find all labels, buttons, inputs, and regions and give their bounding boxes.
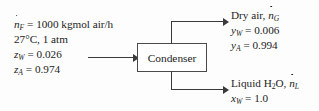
feed-conditions-line: 27°C, 1 atm	[14, 32, 113, 47]
gas-outlet-line	[171, 21, 225, 22]
liquid-stream-name-line: Liquid H2O, nL	[231, 76, 299, 91]
n-dot-symbol: n	[14, 17, 20, 32]
liquid-outlet-label: Liquid H2O, nL xW = 1.0	[231, 76, 299, 106]
subscript-G: G	[274, 14, 280, 23]
n-dot-symbol: n	[289, 76, 295, 91]
feed-stream-label: nF = 1000 kgmol air/h 27°C, 1 atm zW = 0…	[14, 17, 113, 77]
feed-zw-line: zW = 0.026	[14, 47, 113, 62]
gas-yw-value: = 0.006	[242, 24, 279, 36]
condenser-unit: Condenser	[137, 43, 207, 72]
liquid-stream-name: Liquid H	[231, 77, 272, 89]
gas-stream-name: Dry air,	[231, 9, 268, 21]
feed-arrow-line	[88, 57, 135, 58]
liquid-xw-line: xW = 1.0	[231, 91, 299, 106]
liquid-stream-name-suffix: O,	[276, 77, 290, 89]
gas-ya-value: = 0.994	[241, 39, 278, 51]
feed-zw-value: = 0.026	[25, 48, 62, 60]
gas-yw-line: yW = 0.006	[231, 23, 279, 38]
feed-flow-rate-value: = 1000 kgmol air/h	[24, 18, 113, 30]
gas-outlet-arrowhead-icon	[223, 18, 229, 26]
gas-outlet-label: Dry air, nG yW = 0.006 yA = 0.994	[231, 8, 279, 53]
n-dot-symbol: n	[268, 8, 274, 23]
liquid-outlet-arrowhead-icon	[223, 86, 229, 94]
condenser-label: Condenser	[138, 52, 206, 64]
liquid-outlet-line	[171, 89, 225, 90]
gas-outlet-riser-line	[171, 21, 172, 44]
feed-za-value: = 0.974	[23, 63, 60, 75]
feed-flow-rate-line: nF = 1000 kgmol air/h	[14, 17, 113, 32]
gas-ya-line: yA = 0.994	[231, 38, 279, 53]
feed-za-line: zA = 0.974	[14, 62, 113, 77]
liquid-xw-value: = 1.0	[242, 92, 268, 104]
liquid-outlet-drop-line	[171, 71, 172, 90]
subscript-L: L	[295, 82, 299, 91]
gas-stream-name-line: Dry air, nG	[231, 8, 279, 23]
process-flow-diagram: nF = 1000 kgmol air/h 27°C, 1 atm zW = 0…	[0, 0, 319, 111]
